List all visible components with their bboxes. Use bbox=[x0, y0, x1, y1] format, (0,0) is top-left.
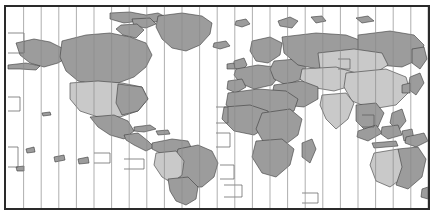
world-timezone-map-screenshot: World Time Zone Map bbox=[0, 0, 434, 216]
map-frame bbox=[4, 5, 430, 210]
world-map-graphic bbox=[6, 7, 428, 208]
region-hawaii bbox=[42, 112, 51, 116]
region-new-zealand bbox=[421, 187, 428, 199]
region-ireland bbox=[227, 63, 235, 69]
region-korea bbox=[402, 83, 410, 93]
region-hispaniola bbox=[156, 130, 170, 135]
